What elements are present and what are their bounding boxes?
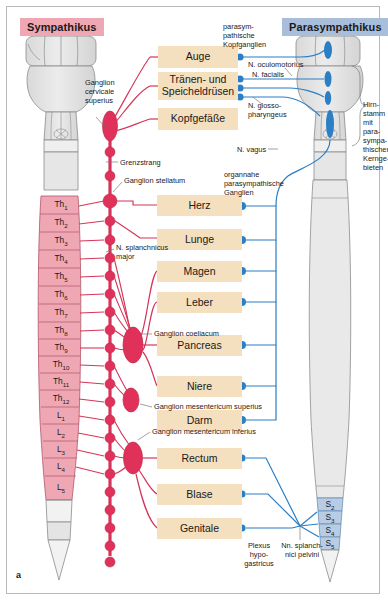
ganglion-mesentericum-superius-node [123, 388, 139, 412]
spinal-segment-th6: Th6 [48, 289, 74, 301]
spinal-segment-th2: Th2 [48, 217, 74, 229]
organ-box-traenen-speicheldruesen[interactable]: Tränen- und Speicheldrüsen [158, 72, 238, 100]
spinal-segment-th1: Th1 [48, 199, 74, 211]
organ-box-leber[interactable]: Leber [157, 292, 242, 313]
label-n-oculomotorius: N. oculomotorius [248, 60, 303, 69]
spinal-segment-th7: Th7 [48, 307, 74, 319]
organ-box-lunge[interactable]: Lunge [157, 229, 242, 250]
organ-box-genitale[interactable]: Genitale [157, 518, 242, 539]
anatomy-figure: Sympathikus Parasympathikus Auge Tränen-… [0, 0, 388, 607]
spinal-segment-s5: S5 [319, 538, 341, 550]
label-ganglion-stellatum: Ganglion stellatum [124, 176, 185, 185]
label-plexus-hypogastricus: Plexus hypo- gastricus [238, 541, 280, 568]
organ-box-pancreas[interactable]: Pancreas [157, 335, 242, 356]
label-ganglion-mesentericum-inferius: Ganglion mesentericum inferius [152, 427, 256, 436]
organ-box-rectum[interactable]: Rectum [157, 448, 242, 469]
spinal-segment-l5: L5 [48, 482, 74, 494]
parasympathetic-brainstem [296, 36, 363, 152]
organ-box-niere[interactable]: Niere [157, 376, 242, 397]
label-ganglion-coeliacum: Ganglion coeliacum [154, 329, 219, 338]
spinal-segment-l4: L4 [48, 461, 74, 473]
spinal-segment-s3: S3 [319, 512, 341, 524]
spinal-segment-th5: Th5 [48, 271, 74, 283]
pelvic-parasympathetic-connectors [246, 458, 319, 537]
spinal-segment-th8: Th8 [48, 325, 74, 337]
label-ganglion-mesentericum-superius: Ganglion mesentericum superius [154, 402, 262, 411]
label-n-facialis: N. facialis [252, 70, 284, 79]
spinal-segment-th10: Th10 [48, 359, 74, 371]
spinal-segment-l1: L1 [48, 410, 74, 422]
spinal-segment-th12: Th12 [48, 393, 74, 405]
label-n-splanchnicus-major: N. splanchnicus major [116, 243, 168, 261]
figure-part-label: a [16, 570, 21, 580]
spinal-segment-th4: Th4 [48, 253, 74, 265]
spinal-segment-th3: Th3 [48, 235, 74, 247]
spinal-segment-th9: Th9 [48, 342, 74, 354]
label-n-vagus: N. vagus [237, 145, 266, 154]
spinal-segment-s2: S2 [319, 499, 341, 511]
organ-box-herz[interactable]: Herz [157, 195, 242, 216]
spinal-segment-th11: Th11 [48, 376, 74, 388]
spinal-segment-l3: L3 [48, 444, 74, 456]
spinal-segment-l2: L2 [48, 427, 74, 439]
spinal-segment-s4: S4 [319, 525, 341, 537]
organ-box-auge[interactable]: Auge [158, 46, 238, 68]
label-organnahe-ganglien: organnahe parasympathische Ganglien [224, 170, 292, 197]
organ-box-kopfgefaesse[interactable]: Kopfgefäße [158, 108, 238, 130]
label-parasympathische-kopfganglien: parasym- pathische Kopfganglien [223, 22, 277, 49]
organ-box-magen[interactable]: Magen [157, 261, 242, 282]
label-ganglion-cervicale-superius: Ganglion cervicale superius [85, 78, 127, 105]
sympathetic-trunk [76, 111, 118, 567]
organ-box-blase[interactable]: Blase [157, 484, 242, 505]
label-n-glossopharyngeus: N. glosso- pharyngeus [248, 101, 298, 119]
header-parasympathikus: Parasympathikus [282, 18, 388, 36]
prevertebral-ganglia [114, 258, 143, 474]
header-sympathikus: Sympathikus [20, 18, 104, 36]
ganglion-coeliacum-node [123, 327, 143, 363]
label-hirnstamm: Hirn- stamm mit para- sympa- thischen Ke… [363, 100, 387, 172]
label-grenzstrang: Grenzstrang [120, 158, 161, 167]
